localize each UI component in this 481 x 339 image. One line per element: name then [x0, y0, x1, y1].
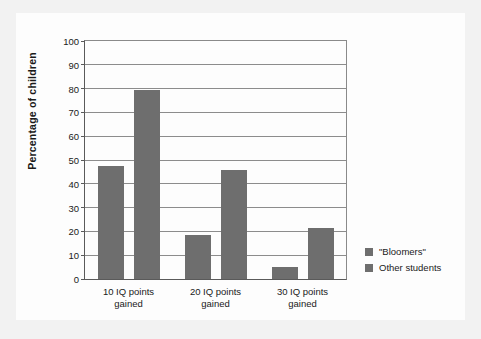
y-axis-tick-label: 80 [39, 83, 79, 94]
y-axis-tick [81, 136, 85, 137]
y-axis-title: Percentage of children [26, 41, 38, 181]
y-axis-tick [81, 207, 85, 208]
y-axis-tick-label: 40 [39, 178, 79, 189]
legend-item: "Bloomers" [365, 246, 441, 257]
x-axis-category-label: 20 IQ pointsgained [190, 286, 241, 310]
y-axis-tick [81, 255, 85, 256]
bar [134, 90, 160, 279]
y-axis-tick [81, 64, 85, 65]
y-axis-tick-label: 20 [39, 226, 79, 237]
y-axis-tick-label: 30 [39, 202, 79, 213]
bar-chart-figure: Percentage of children 01020304050607080… [0, 0, 481, 339]
legend-swatch-other-students [365, 264, 373, 272]
plot-area: 010203040506070809010010 IQ pointsgained… [84, 40, 347, 280]
gridline [85, 136, 346, 137]
chart-page: Percentage of children 01020304050607080… [0, 0, 481, 339]
y-axis-tick [81, 231, 85, 232]
bar [308, 228, 334, 279]
y-axis-tick [81, 112, 85, 113]
x-axis-category-label: 10 IQ pointsgained [103, 286, 154, 310]
bar [98, 166, 124, 279]
chart-legend: "Bloomers" Other students [365, 246, 441, 278]
bar [185, 235, 211, 279]
y-axis-tick [81, 183, 85, 184]
y-axis-tick-label: 70 [39, 107, 79, 118]
y-axis-tick-label: 100 [39, 36, 79, 47]
gridline [85, 88, 346, 89]
gridline [85, 112, 346, 113]
y-axis-tick-label: 60 [39, 131, 79, 142]
y-axis-tick [81, 279, 85, 280]
y-axis-tick [81, 160, 85, 161]
gridline [85, 160, 346, 161]
legend-item: Other students [365, 262, 441, 273]
legend-label-other-students: Other students [379, 262, 441, 273]
legend-label-bloomers: "Bloomers" [379, 246, 426, 257]
y-axis-tick-label: 10 [39, 250, 79, 261]
x-axis-category-label: 30 IQ pointsgained [277, 286, 328, 310]
gridline [85, 183, 346, 184]
bar [221, 170, 247, 279]
gridline [85, 207, 346, 208]
y-axis-tick-label: 90 [39, 59, 79, 70]
y-axis-tick [81, 88, 85, 89]
y-axis-tick-label: 0 [39, 274, 79, 285]
bar [272, 267, 298, 279]
legend-swatch-bloomers [365, 248, 373, 256]
gridline [85, 64, 346, 65]
y-axis-tick-label: 50 [39, 155, 79, 166]
y-axis-tick [81, 41, 85, 42]
